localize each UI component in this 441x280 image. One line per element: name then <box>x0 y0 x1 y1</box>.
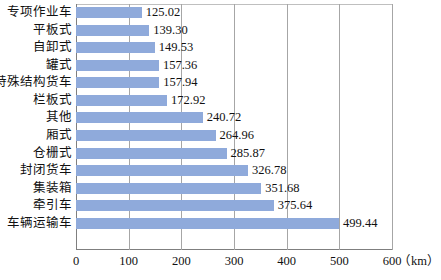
bar <box>76 42 155 53</box>
tick-label-0: 0 <box>73 252 79 270</box>
bar <box>76 7 142 18</box>
bar-rows: 125.02139.30149.53157.36157.94172.92240.… <box>76 4 392 250</box>
bar <box>76 60 159 71</box>
bar-row: 139.30 <box>76 22 392 40</box>
bar-chart: 专项作业车平板式自卸式罐式特殊结构货车栏板式其他厢式仓栅式封闭货车集装箱牵引车车… <box>0 0 441 280</box>
bar-value-label: 139.30 <box>153 22 187 39</box>
category-label: 特殊结构货车 <box>0 74 72 92</box>
bar <box>76 77 159 88</box>
bar <box>76 95 167 106</box>
bar-row: 172.92 <box>76 92 392 110</box>
category-label: 封闭货车 <box>20 162 72 180</box>
tick-label-500: 500 <box>330 252 349 270</box>
bar-value-label: 149.53 <box>159 39 193 56</box>
tick-label-200: 200 <box>172 252 191 270</box>
tick-label-400: 400 <box>277 252 296 270</box>
bar-row: 499.44 <box>76 215 392 233</box>
category-label: 自卸式 <box>33 39 72 57</box>
bar-value-label: 351.68 <box>265 180 299 197</box>
bar-value-label: 499.44 <box>343 215 377 232</box>
bar-row: 351.68 <box>76 180 392 198</box>
plot-area: 125.02139.30149.53157.36157.94172.92240.… <box>76 4 392 250</box>
bar-row: 125.02 <box>76 4 392 22</box>
bar <box>76 25 149 36</box>
bar <box>76 165 248 176</box>
bar-value-label: 172.92 <box>171 92 205 109</box>
bar-value-label: 264.96 <box>220 127 254 144</box>
bar <box>76 130 216 141</box>
category-label: 栏板式 <box>33 92 72 110</box>
bar-value-label: 125.02 <box>146 4 180 21</box>
axis-unit-label: （km） <box>398 252 440 270</box>
bar <box>76 148 227 159</box>
bar <box>76 112 203 123</box>
bar-value-label: 240.72 <box>207 109 241 126</box>
bar-value-label: 157.94 <box>163 74 197 91</box>
category-label: 集装箱 <box>33 180 72 198</box>
category-label: 平板式 <box>33 22 72 40</box>
bar-row: 149.53 <box>76 39 392 57</box>
category-label: 仓栅式 <box>33 145 72 163</box>
category-label: 车辆运输车 <box>7 215 72 233</box>
bar-value-label: 326.78 <box>252 162 286 179</box>
bar-row: 240.72 <box>76 109 392 127</box>
bar-value-label: 157.36 <box>163 57 197 74</box>
bar-value-label: 285.87 <box>231 145 265 162</box>
category-label: 厢式 <box>46 127 72 145</box>
value-axis-tick-labels: 0100200300400500600 <box>0 252 441 272</box>
gridline-600 <box>392 4 393 250</box>
bar <box>76 183 261 194</box>
bar-row: 375.64 <box>76 197 392 215</box>
category-label: 专项作业车 <box>7 4 72 22</box>
bar-row: 264.96 <box>76 127 392 145</box>
category-label: 罐式 <box>46 57 72 75</box>
category-axis-labels: 专项作业车平板式自卸式罐式特殊结构货车栏板式其他厢式仓栅式封闭货车集装箱牵引车车… <box>0 4 72 250</box>
tick-label-100: 100 <box>119 252 138 270</box>
bar-row: 157.36 <box>76 57 392 75</box>
tick-label-300: 300 <box>225 252 244 270</box>
bar-value-label: 375.64 <box>278 197 312 214</box>
bar <box>76 200 274 211</box>
bar-row: 157.94 <box>76 74 392 92</box>
category-label: 牵引车 <box>33 197 72 215</box>
bar <box>76 218 339 229</box>
category-label: 其他 <box>46 109 72 127</box>
bar-row: 285.87 <box>76 145 392 163</box>
bar-row: 326.78 <box>76 162 392 180</box>
